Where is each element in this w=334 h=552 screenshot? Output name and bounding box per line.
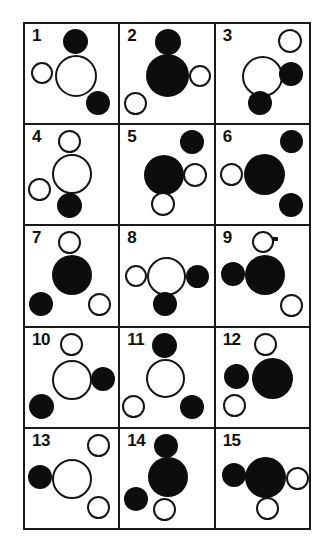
open-circle bbox=[153, 498, 176, 521]
item-cell[interactable]: 12 bbox=[216, 328, 311, 429]
item-number: 14 bbox=[127, 432, 145, 449]
item-grid: 123456789101112131415 bbox=[23, 22, 311, 530]
tick-mark-icon bbox=[272, 237, 278, 241]
open-circle bbox=[223, 394, 246, 417]
open-circle bbox=[252, 231, 274, 253]
open-circle bbox=[52, 154, 92, 194]
item-number: 6 bbox=[223, 128, 232, 145]
filled-circle bbox=[244, 154, 285, 195]
item-cell[interactable]: 15 bbox=[216, 429, 311, 530]
filled-circle bbox=[180, 130, 204, 154]
filled-circle bbox=[153, 292, 177, 316]
open-circle bbox=[28, 178, 51, 201]
open-circle bbox=[124, 92, 147, 115]
filled-circle bbox=[154, 434, 178, 458]
open-circle bbox=[278, 29, 302, 53]
filled-circle bbox=[245, 255, 285, 295]
open-circle bbox=[58, 231, 81, 254]
filled-circle bbox=[280, 130, 303, 153]
item-number: 13 bbox=[32, 432, 50, 449]
item-number: 12 bbox=[223, 331, 241, 348]
item-cell[interactable]: 3 bbox=[216, 24, 311, 125]
item-number: 8 bbox=[127, 229, 136, 246]
open-circle bbox=[189, 65, 211, 87]
item-cell[interactable]: 1 bbox=[25, 24, 120, 125]
filled-circle bbox=[144, 155, 184, 195]
open-circle bbox=[87, 434, 110, 457]
filled-circle bbox=[146, 54, 189, 97]
open-circle bbox=[125, 265, 147, 287]
filled-circle bbox=[29, 292, 53, 316]
open-circle bbox=[122, 395, 145, 418]
filled-circle bbox=[28, 465, 52, 489]
item-cell[interactable]: 13 bbox=[25, 429, 120, 530]
open-circle bbox=[220, 163, 243, 186]
open-circle bbox=[146, 359, 185, 398]
item-cell[interactable]: 8 bbox=[120, 226, 215, 327]
filled-circle bbox=[279, 62, 303, 86]
filled-circle bbox=[155, 29, 181, 55]
open-circle bbox=[60, 333, 83, 356]
filled-circle bbox=[86, 91, 110, 115]
item-number: 7 bbox=[32, 229, 41, 246]
open-circle bbox=[280, 294, 303, 317]
open-circle bbox=[87, 496, 110, 519]
filled-circle bbox=[180, 395, 204, 419]
filled-circle bbox=[124, 487, 148, 511]
open-circle bbox=[147, 257, 186, 296]
filled-circle bbox=[91, 367, 115, 391]
item-number: 11 bbox=[127, 331, 144, 348]
item-cell[interactable]: 6 bbox=[216, 125, 311, 226]
item-number: 4 bbox=[32, 128, 41, 145]
filled-circle bbox=[248, 91, 272, 115]
figure-sheet: 123456789101112131415 bbox=[0, 0, 334, 552]
item-cell[interactable]: 9 bbox=[216, 226, 311, 327]
filled-circle bbox=[224, 364, 249, 389]
filled-circle bbox=[186, 265, 209, 288]
open-circle bbox=[55, 55, 97, 97]
item-cell[interactable]: 5 bbox=[120, 125, 215, 226]
filled-circle bbox=[57, 193, 82, 218]
open-circle bbox=[286, 467, 309, 490]
item-cell[interactable]: 4 bbox=[25, 125, 120, 226]
filled-circle bbox=[222, 463, 246, 487]
open-circle bbox=[52, 459, 92, 499]
item-number: 2 bbox=[127, 27, 136, 44]
filled-circle bbox=[279, 193, 303, 217]
open-circle bbox=[31, 62, 53, 84]
filled-circle bbox=[245, 457, 286, 498]
item-cell[interactable]: 2 bbox=[120, 24, 215, 125]
filled-circle bbox=[148, 457, 188, 497]
filled-circle bbox=[252, 358, 293, 399]
open-circle bbox=[58, 130, 81, 153]
open-circle bbox=[256, 497, 279, 520]
item-number: 10 bbox=[32, 331, 50, 348]
filled-circle bbox=[221, 262, 245, 286]
item-cell[interactable]: 7 bbox=[25, 226, 120, 327]
item-number: 9 bbox=[223, 229, 232, 246]
item-cell[interactable]: 11 bbox=[120, 328, 215, 429]
open-circle bbox=[151, 192, 175, 216]
item-number: 15 bbox=[223, 432, 241, 449]
item-number: 1 bbox=[32, 27, 41, 44]
item-number: 5 bbox=[127, 128, 136, 145]
filled-circle bbox=[152, 333, 177, 358]
open-circle bbox=[52, 360, 92, 400]
open-circle bbox=[88, 293, 111, 316]
open-circle bbox=[254, 333, 277, 356]
filled-circle bbox=[29, 394, 54, 419]
filled-circle bbox=[52, 255, 92, 295]
filled-circle bbox=[63, 29, 88, 54]
item-cell[interactable]: 14 bbox=[120, 429, 215, 530]
item-number: 3 bbox=[223, 27, 232, 44]
open-circle bbox=[183, 163, 207, 187]
item-cell[interactable]: 10 bbox=[25, 328, 120, 429]
